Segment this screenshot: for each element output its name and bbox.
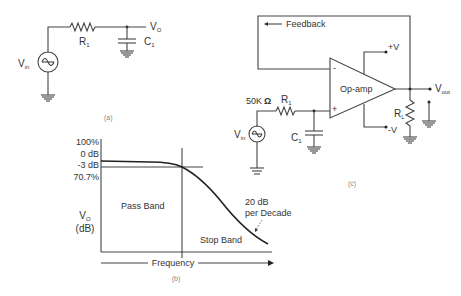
capacitor-c1 — [118, 39, 136, 43]
vout-terminal — [428, 87, 431, 90]
stop-band-label: Stop Band — [200, 235, 242, 245]
y-axis-unit: (dB) — [76, 223, 95, 234]
neg-supply-label: -V — [388, 125, 397, 135]
ground-icon — [422, 121, 436, 127]
arrow-right-icon — [268, 260, 274, 266]
y-tick-0db: 0 dB — [80, 149, 99, 159]
slope-label-line1: 20 dB — [245, 197, 269, 207]
c1-label: C1 — [144, 36, 155, 48]
ground-icon — [403, 137, 417, 143]
capacitor-c1 — [305, 131, 323, 135]
caption-a: (a) — [104, 114, 113, 122]
vout-label: Vout — [435, 83, 450, 95]
vo-label: VO — [150, 21, 162, 33]
feedback-label: Feedback — [286, 19, 326, 29]
opamp-label: Op-amp — [340, 84, 373, 94]
rl-label: RL — [394, 108, 405, 120]
vin-label: Vin — [18, 58, 29, 70]
noninverting-input-label: + — [332, 104, 337, 114]
circuit-a: Vin R1 C1 VO (a) — [18, 21, 162, 122]
ground-icon — [250, 168, 264, 174]
y-tick-minus-3db: -3 dB — [77, 160, 99, 170]
resistance-value: 50KΩ — [246, 96, 271, 106]
ac-source-icon — [38, 52, 58, 72]
r1-label: R1 — [79, 36, 90, 48]
caption-b: (b) — [172, 275, 181, 283]
ground-icon — [120, 51, 134, 57]
slope-label-line2: per Decade — [245, 208, 292, 218]
resistor-rl — [406, 100, 414, 126]
slope-pointer-arrow — [256, 220, 262, 230]
low-pass-filter-figure: Vin R1 C1 VO (a) 100% 0 dB -3 dB 70.7% V… — [0, 0, 461, 296]
y-tick-70-7-percent: 70.7% — [73, 172, 99, 182]
pass-band-label: Pass Band — [121, 201, 165, 211]
vin-label: Vin — [234, 129, 245, 141]
ground-icon — [307, 147, 321, 153]
caption-c: (c) — [348, 180, 356, 188]
ground-icon — [41, 95, 55, 101]
y-tick-100-percent: 100% — [76, 137, 99, 147]
pos-supply-label: +V — [388, 42, 399, 52]
c1-label: C1 — [291, 132, 302, 144]
circuit-c: Feedback Op-amp - + +V -V Vout RL — [234, 16, 450, 188]
resistor-r1 — [70, 23, 95, 31]
inverting-input-label: - — [333, 63, 336, 73]
arrow-left-icon — [264, 22, 268, 26]
resistor-r1 — [276, 107, 295, 115]
x-axis-label: Frequency — [152, 258, 195, 268]
y-axis-label: VO — [79, 210, 91, 222]
r1-label: R1 — [281, 94, 292, 106]
graph-b: 100% 0 dB -3 dB 70.7% VO (dB) Pass Band … — [73, 137, 291, 283]
ac-source-icon — [249, 126, 265, 142]
